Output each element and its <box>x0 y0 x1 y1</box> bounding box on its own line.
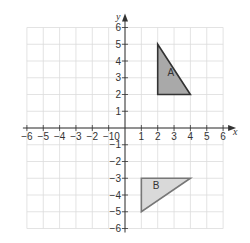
x-tick-label: 5 <box>204 131 210 142</box>
y-tick-label: 1 <box>115 106 121 117</box>
coordinate-grid: AB −6−5−4−3−2−1123456654321−1−2−3−4−5−60… <box>0 0 250 243</box>
y-tick-label: 2 <box>115 89 121 100</box>
y-tick-label: 6 <box>115 22 121 33</box>
y-tick-label: 5 <box>115 39 121 50</box>
y-tick-label: 4 <box>115 56 121 67</box>
axes <box>23 14 236 233</box>
x-tick-label: −3 <box>70 131 82 142</box>
x-tick-label: 2 <box>155 131 161 142</box>
y-tick-label: −4 <box>110 190 122 201</box>
x-tick-label: −5 <box>38 131 50 142</box>
y-tick-label: −5 <box>110 206 122 217</box>
y-axis-arrow-icon <box>122 14 128 22</box>
y-axis-label: y <box>115 11 121 22</box>
x-axis-label: x <box>232 126 238 137</box>
y-tick-label: −6 <box>110 223 122 234</box>
y-tick-label: −3 <box>110 173 122 184</box>
shape-label-a: A <box>168 67 175 78</box>
x-tick-label: −2 <box>87 131 99 142</box>
y-tick-label: 3 <box>115 72 121 83</box>
x-tick-label: 1 <box>139 131 145 142</box>
y-tick-label: −2 <box>110 156 122 167</box>
x-tick-label: 6 <box>220 131 226 142</box>
origin-label: 0 <box>114 131 120 142</box>
shape-label-b: B <box>153 180 160 191</box>
x-tick-label: −4 <box>54 131 66 142</box>
x-tick-label: −6 <box>21 131 33 142</box>
x-tick-label: 4 <box>188 131 194 142</box>
x-tick-label: 3 <box>171 131 177 142</box>
